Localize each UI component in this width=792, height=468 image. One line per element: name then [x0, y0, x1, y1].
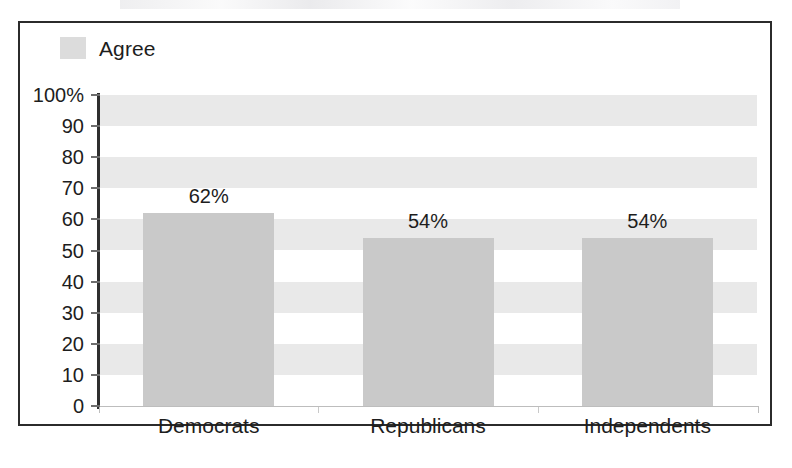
y-axis-tick-label: 60 [62, 209, 84, 229]
y-axis-tick-labels: 100%9080706050403020100 [20, 23, 90, 428]
y-axis-tick [91, 125, 100, 127]
x-axis-separator [318, 407, 319, 413]
y-axis-tick-label: 100% [33, 85, 84, 105]
y-axis-tick [91, 94, 100, 96]
bar-value-label: 54% [587, 211, 707, 231]
bar-value-label: 54% [368, 211, 488, 231]
plot-area [99, 95, 757, 406]
y-axis-tick-label: 70 [62, 178, 84, 198]
legend-label-agree: Agree [99, 38, 156, 59]
y-axis-tick-label: 20 [62, 334, 84, 354]
chart-screenshot: Agree 100%9080706050403020100 62%Democra… [0, 0, 792, 468]
y-axis-tick-label: 0 [73, 396, 84, 416]
y-axis-tick [91, 374, 100, 376]
gridline-band [99, 157, 757, 188]
x-axis-separator [538, 407, 539, 413]
x-axis-category-label: Democrats [99, 415, 319, 436]
x-axis-line [99, 406, 759, 407]
y-axis-tick-label: 40 [62, 272, 84, 292]
y-axis-tick [91, 156, 100, 158]
y-axis-tick [91, 312, 100, 314]
y-axis-tick-label: 10 [62, 365, 84, 385]
y-axis-tick [91, 218, 100, 220]
y-axis-tick [91, 187, 100, 189]
bar-value-label: 62% [149, 186, 269, 206]
x-axis-category-label: Republicans [318, 415, 538, 436]
y-axis-tick-label: 80 [62, 147, 84, 167]
y-axis-tick-label: 90 [62, 116, 84, 136]
gridline-band [99, 95, 757, 126]
x-axis-left-cap [99, 406, 100, 413]
y-axis-tick [91, 281, 100, 283]
cropped-title-sliver [120, 0, 680, 9]
x-axis-category-label: Independents [537, 415, 757, 436]
y-axis-tick-label: 30 [62, 303, 84, 323]
bar [363, 238, 494, 406]
y-axis-tick [91, 250, 100, 252]
y-axis-tick-label: 50 [62, 241, 84, 261]
x-axis-right-cap [758, 406, 759, 413]
bar [143, 213, 274, 406]
y-axis-tick [91, 343, 100, 345]
bar [582, 238, 713, 406]
chart-frame: Agree 100%9080706050403020100 62%Democra… [18, 21, 772, 426]
y-axis-tick [91, 405, 100, 407]
